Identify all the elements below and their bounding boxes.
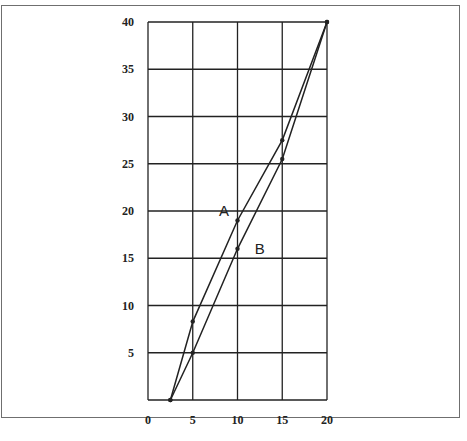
data-point [235,218,239,222]
grid [148,22,327,400]
x-tick-label: 10 [232,413,244,427]
data-point [325,20,329,24]
x-axis-ticks: 05101520 [145,413,333,427]
data-point [235,247,239,251]
y-tick-label: 40 [122,15,134,29]
data-point [280,138,284,142]
x-tick-label: 15 [276,413,288,427]
series-label-b: B [255,240,265,257]
data-point [280,157,284,161]
y-tick-label: 20 [122,204,134,218]
y-tick-label: 5 [128,346,134,360]
x-tick-label: 0 [145,413,151,427]
y-tick-label: 10 [122,299,134,313]
y-axis-ticks: 510152025303540 [122,15,134,360]
series-labels: AB [219,202,265,257]
data-point [191,319,195,323]
x-tick-label: 20 [321,413,333,427]
y-tick-label: 25 [122,157,134,171]
x-tick-label: 5 [190,413,196,427]
data-point [191,351,195,355]
y-tick-label: 30 [122,110,134,124]
y-tick-label: 15 [122,251,134,265]
line-chart: 05101520 510152025303540 AB [0,0,467,441]
y-tick-label: 35 [122,62,134,76]
data-point [168,398,172,402]
series-label-a: A [219,202,229,219]
